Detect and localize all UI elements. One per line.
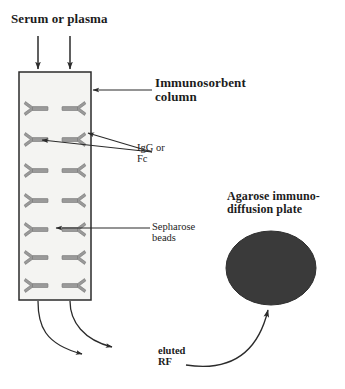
immunosorbent-column-label-line1: Immunosorbent <box>155 75 246 90</box>
igg-or-fc-label-line2: Fc <box>137 153 148 164</box>
rf-transfer-arrow-to-plate <box>186 310 268 366</box>
sepharose-beads-label-line2: beads <box>152 232 176 243</box>
serum-or-plasma-label: Serum or plasma <box>11 12 108 26</box>
agarose-immunodiffusion-plate <box>226 231 316 305</box>
eluate-outlet-curve-left <box>38 301 82 354</box>
eluted-rf-label-line2: RF <box>158 356 172 367</box>
sepharose-beads-label: Sepharosebeads <box>152 221 195 244</box>
eluted-rf-label: elutedRF <box>158 345 185 368</box>
immunosorbent-column-label: Immunosorbentcolumn <box>155 76 246 104</box>
igg-or-fc-label: IgG orFc <box>137 142 165 165</box>
eluted-rf-label-line1: eluted <box>158 345 185 356</box>
sepharose-beads-label-line1: Sepharose <box>152 221 195 232</box>
agarose-plate-label-line2: diffusion plate <box>227 202 302 216</box>
agarose-plate-label-line1: Agarose immuno- <box>227 189 320 203</box>
immunosorbent-column-label-line2: column <box>155 89 197 104</box>
igg-or-fc-label-line1: IgG or <box>137 142 165 153</box>
immunosorbent-column-diagram: Serum or plasma Immunosorbentcolumn IgG … <box>0 0 345 389</box>
agarose-plate-label: Agarose immuno-diffusion plate <box>227 190 320 216</box>
eluate-outlet-curve-right <box>70 301 112 347</box>
